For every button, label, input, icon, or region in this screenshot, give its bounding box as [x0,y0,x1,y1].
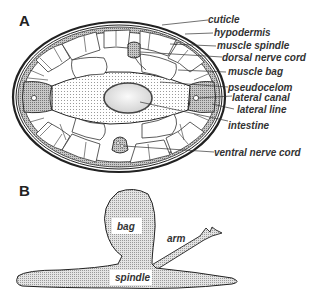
label-dorsal-nerve-cord: dorsal nerve cord [222,52,307,63]
label-lateral-canal: lateral canal [232,92,290,103]
label-spindle: spindle [115,272,150,283]
label-hypodermis: hypodermis [214,27,271,38]
label-lateral-line: lateral line [237,104,287,115]
label-cuticle: cuticle [208,14,240,25]
label-intestine: intestine [228,120,270,131]
nematode-diagram: A [0,0,311,294]
label-bag: bag [117,221,135,232]
cross-section [13,22,225,172]
panel-label-b: B [19,182,30,199]
label-arm: arm [167,233,185,244]
panel-label-a: A [19,12,30,29]
label-ventral-nerve-cord: ventral nerve cord [214,147,302,158]
label-muscle-bag: muscle bag [228,66,283,77]
label-muscle-spindle: muscle spindle [217,40,290,51]
